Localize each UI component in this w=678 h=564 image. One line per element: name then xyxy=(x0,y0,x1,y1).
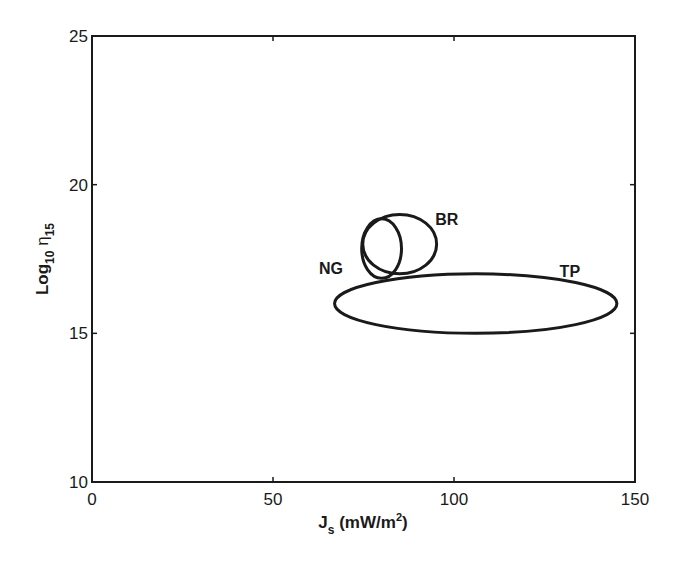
y-tick-label: 20 xyxy=(69,176,88,195)
y-tick-label: 10 xyxy=(69,473,88,492)
x-axis-label: Js (mW/m2) xyxy=(318,511,407,537)
ellipse-tp xyxy=(335,274,617,333)
label-tp: TP xyxy=(560,263,581,280)
x-tick-label: 0 xyxy=(87,490,96,509)
y-axis-label: Log10 η15 xyxy=(33,223,57,295)
label-ng: NG xyxy=(319,260,343,277)
y-tick-label: 25 xyxy=(69,27,88,46)
chart: 05010015010152025 TPBRNG Js (mW/m2) Log1… xyxy=(0,0,678,564)
x-tick-label: 150 xyxy=(621,490,649,509)
x-tick-label: 50 xyxy=(264,490,283,509)
region-labels: TPBRNG xyxy=(319,211,580,280)
y-tick-label: 15 xyxy=(69,324,88,343)
x-tick-label: 100 xyxy=(440,490,468,509)
label-br: BR xyxy=(435,211,459,228)
